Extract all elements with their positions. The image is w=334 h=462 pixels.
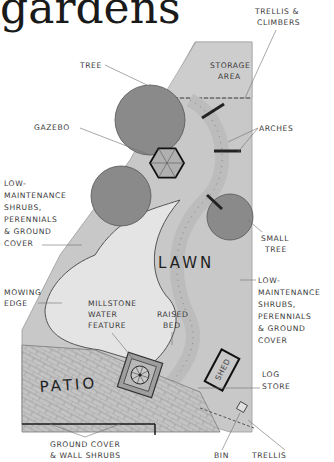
- svg-text:LOW-: LOW-: [4, 179, 26, 188]
- trellis-climbers-label-2: CLIMBERS: [257, 18, 300, 27]
- tree-label: TREE: [79, 61, 102, 70]
- svg-text:PERENNIALS: PERENNIALS: [258, 312, 311, 321]
- millstone-label-3: FEATURE: [88, 321, 126, 330]
- log-store-label-1: LOG: [262, 370, 280, 379]
- low-maintenance-right-label: LOW- MAINTENANCE SHRUBS, PERENNIALS & GR…: [258, 276, 320, 345]
- trellis-label: TRELLIS: [251, 451, 286, 460]
- ground-cover-label-1: GROUND COVER: [50, 440, 120, 449]
- arches-label: ARCHES: [259, 124, 293, 133]
- gazebo: [150, 148, 184, 177]
- log-store-label-2: STORE: [262, 382, 291, 391]
- svg-text:MAINTENANCE: MAINTENANCE: [4, 191, 66, 200]
- storage-label-1: STORAGE: [210, 61, 250, 70]
- raised-bed-label-1: RAISED: [157, 310, 188, 319]
- small-tree-label-2: TREE: [264, 245, 287, 254]
- mowing-edge-label-2: EDGE: [4, 299, 28, 308]
- low-maintenance-left-label: LOW- MAINTENANCE SHRUBS, PERENNIALS & GR…: [4, 179, 66, 248]
- svg-text:COVER: COVER: [4, 239, 34, 248]
- garden-plan: SHED LAWN PATIO STORAGE AREA TREE TRELLI…: [0, 0, 334, 462]
- ground-cover-label-2: & WALL SHRUBS: [50, 451, 121, 460]
- svg-text:SHRUBS,: SHRUBS,: [258, 300, 296, 309]
- gazebo-label: GAZEBO: [34, 123, 70, 132]
- svg-text:MAINTENANCE: MAINTENANCE: [258, 288, 320, 297]
- svg-text:COVER: COVER: [258, 336, 288, 345]
- svg-text:& GROUND: & GROUND: [4, 227, 51, 236]
- svg-text:LOW-: LOW-: [258, 276, 280, 285]
- svg-text:SHRUBS,: SHRUBS,: [4, 203, 42, 212]
- bin-label: BIN: [214, 451, 229, 460]
- mowing-edge-label-1: MOWING: [4, 288, 41, 297]
- storage-area: [162, 42, 252, 98]
- tree-left: [91, 166, 151, 226]
- raised-bed-label-2: BED: [163, 321, 181, 330]
- small-tree-label-1: SMALL: [261, 234, 289, 243]
- millstone-label-2: WATER: [88, 310, 118, 319]
- trellis-climbers-label-1: TRELLIS &: [254, 7, 299, 16]
- svg-text:& GROUND: & GROUND: [258, 324, 305, 333]
- lawn-label: LAWN: [158, 254, 214, 272]
- tree-top: [115, 85, 185, 155]
- millstone-label-1: MILLSTONE: [88, 299, 137, 308]
- storage-label-2: AREA: [218, 72, 241, 81]
- svg-text:PERENNIALS: PERENNIALS: [4, 215, 57, 224]
